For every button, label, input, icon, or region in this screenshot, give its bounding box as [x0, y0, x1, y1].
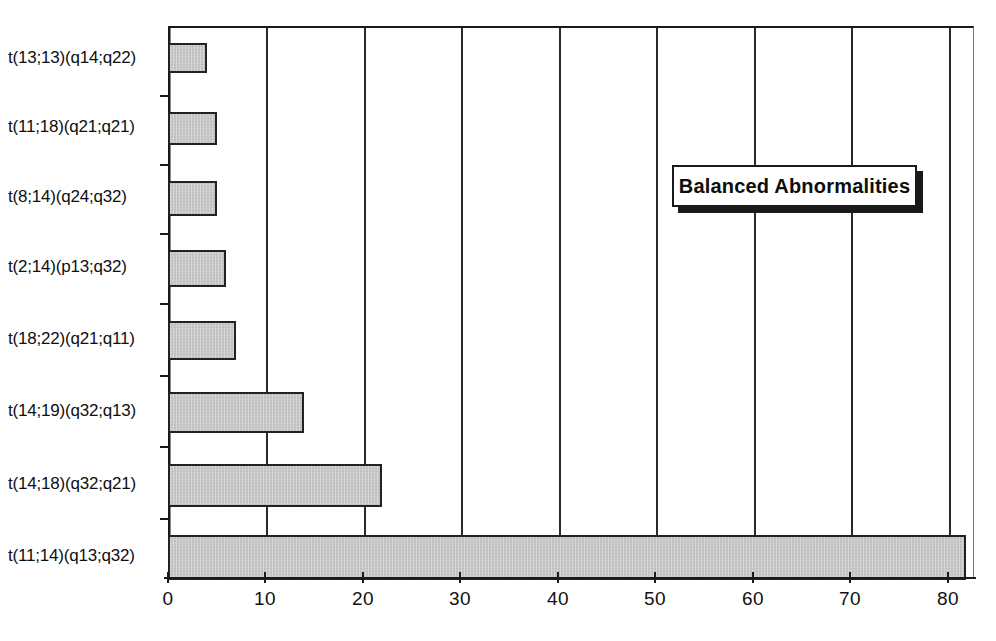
- bar-5: [168, 392, 304, 433]
- category-label-1: t(11;18)(q21;q21): [8, 117, 160, 137]
- y-tick-4: [160, 375, 169, 377]
- x-tick-label-40: 40: [528, 588, 588, 610]
- legend-box: Balanced Abnormalities: [672, 165, 917, 207]
- x-tick-label-60: 60: [723, 588, 783, 610]
- x-tick-60: [752, 572, 754, 583]
- x-tick-label-10: 10: [235, 588, 295, 610]
- bar-0: [168, 43, 207, 73]
- x-tick-label-50: 50: [625, 588, 685, 610]
- gridline-30: [461, 28, 463, 578]
- category-label-3: t(2;14)(p13;q32): [8, 257, 160, 277]
- category-label-0: t(13;13)(q14;q22): [8, 48, 160, 68]
- bar-chart: t(13;13)(q14;q22) t(11;18)(q21;q21) t(8;…: [0, 0, 996, 641]
- x-axis-line: [164, 577, 976, 579]
- y-tick-5: [160, 446, 169, 448]
- category-label-6: t(14;18)(q32;q21): [8, 474, 160, 494]
- x-tick-20: [362, 572, 364, 583]
- gridline-80: [949, 28, 951, 578]
- bar-7: [168, 535, 966, 580]
- x-tick-label-0: 0: [138, 588, 198, 610]
- x-tick-0: [167, 572, 169, 583]
- x-tick-80: [947, 572, 949, 583]
- x-tick-40: [557, 572, 559, 583]
- category-label-7: t(11;14)(q13;q32): [8, 546, 160, 566]
- y-tick-6: [160, 518, 169, 520]
- x-tick-label-80: 80: [918, 588, 978, 610]
- x-tick-10: [264, 572, 266, 583]
- bar-3: [168, 250, 226, 287]
- x-tick-30: [459, 572, 461, 583]
- gridline-60: [754, 28, 756, 578]
- x-tick-70: [849, 572, 851, 583]
- bar-1: [168, 112, 217, 145]
- category-label-2: t(8;14)(q24;q32): [8, 187, 160, 207]
- y-tick-3: [160, 303, 169, 305]
- y-tick-2: [160, 233, 169, 235]
- bar-4: [168, 321, 236, 360]
- bar-2: [168, 181, 217, 216]
- gridline-50: [656, 28, 658, 578]
- x-tick-50: [654, 572, 656, 583]
- bar-6: [168, 464, 382, 507]
- gridline-70: [851, 28, 853, 578]
- legend-label: Balanced Abnormalities: [679, 175, 911, 198]
- x-tick-label-30: 30: [430, 588, 490, 610]
- y-tick-1: [160, 164, 169, 166]
- category-label-5: t(14;19)(q32;q13): [8, 401, 160, 421]
- x-tick-label-20: 20: [333, 588, 393, 610]
- x-tick-label-70: 70: [820, 588, 880, 610]
- y-tick-0: [160, 95, 169, 97]
- gridline-40: [559, 28, 561, 578]
- category-label-4: t(18;22)(q21;q11): [8, 329, 160, 349]
